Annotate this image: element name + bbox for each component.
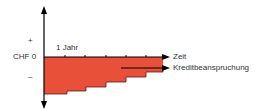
y-axis-down-arrow-icon	[41, 101, 47, 109]
credit-usage-area	[44, 57, 163, 94]
x-axis-end-label: Zeit	[173, 53, 186, 61]
series-label: Kreditbeanspruchung	[173, 64, 249, 72]
x-axis-arrow-icon	[162, 54, 170, 60]
y-axis-up-arrow-icon	[41, 6, 47, 14]
y-axis-zero-label: CHF 0	[13, 53, 36, 61]
x-axis-tick-label: 1 Jahr	[56, 44, 78, 52]
credit-usage-diagram	[0, 0, 258, 111]
series-pointer-arrow-icon	[162, 65, 170, 71]
y-axis-plus-label: +	[28, 37, 33, 45]
y-axis-minus-label: –	[28, 73, 32, 81]
